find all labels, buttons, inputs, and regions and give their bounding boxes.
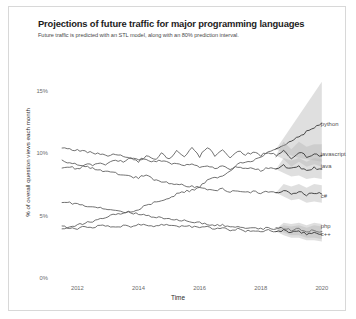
plot-area	[9, 7, 347, 312]
series-label-python: python	[321, 121, 339, 127]
series-label-php: php	[321, 223, 331, 229]
y-axis-label: % of overall question views each month	[24, 98, 31, 228]
y-tick-label: 15%	[24, 88, 48, 94]
y-tick-label: 10%	[24, 150, 48, 156]
x-axis-label: Time	[9, 294, 347, 301]
chart-canvas	[9, 7, 347, 312]
series-label-javascript: javascript	[321, 151, 346, 157]
y-tick-label: 5%	[24, 213, 48, 219]
x-tick-label: 2020	[307, 285, 337, 291]
x-tick-label: 2016	[185, 285, 215, 291]
x-tick-label: 2018	[246, 285, 276, 291]
x-tick-label: 2012	[62, 285, 92, 291]
chart-figure: Projections of future traffic for major …	[8, 6, 346, 311]
y-tick-label: 0%	[24, 275, 48, 281]
series-label-c-: c#	[321, 193, 327, 199]
series-label-c-: c++	[321, 231, 331, 237]
x-tick-label: 2014	[124, 285, 154, 291]
series-label-java: java	[321, 163, 332, 169]
